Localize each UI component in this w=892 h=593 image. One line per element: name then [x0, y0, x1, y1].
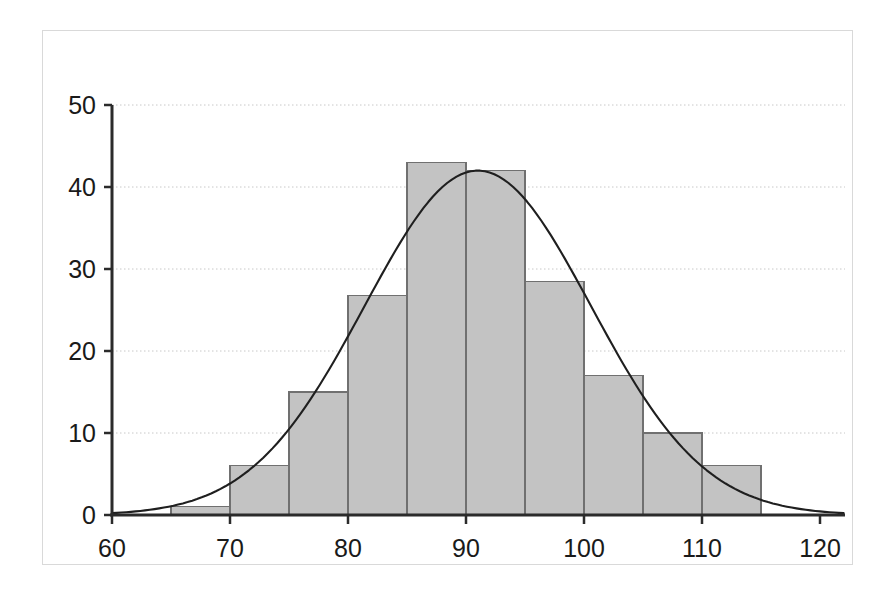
x-tick-label: 100 [563, 534, 605, 562]
histogram-bar [643, 433, 702, 515]
x-tick-label: 80 [334, 534, 362, 562]
x-tick-label: 90 [452, 534, 480, 562]
x-tick-label: 110 [682, 534, 722, 562]
y-tick-label: 0 [82, 501, 96, 529]
y-axis-tick-labels: 01020304050 [68, 91, 96, 529]
histogram-bar [525, 281, 584, 515]
y-tick-label: 30 [68, 255, 96, 283]
histogram-bar [348, 295, 407, 515]
x-axis-tick-labels: 60708090100110120 [98, 534, 841, 562]
histogram-bar [407, 162, 466, 515]
histogram-bar [289, 392, 348, 515]
x-tick-label: 60 [98, 534, 126, 562]
histogram-bar [230, 466, 289, 515]
histogram-bar [584, 376, 643, 515]
y-tick-label: 40 [68, 173, 96, 201]
x-tick-label: 120 [799, 534, 841, 562]
y-tick-label: 10 [68, 419, 96, 447]
y-tick-label: 50 [68, 91, 96, 119]
histogram-chart: 01020304050 60708090100110120 [0, 0, 892, 593]
histogram-bar [466, 171, 525, 515]
x-tick-label: 70 [216, 534, 244, 562]
y-tick-label: 20 [68, 337, 96, 365]
chart-root: 01020304050 60708090100110120 [0, 0, 892, 593]
